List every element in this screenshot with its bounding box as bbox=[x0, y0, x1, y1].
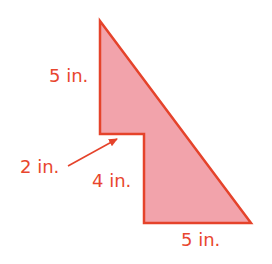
inner-vertical-label: 4 in. bbox=[92, 172, 131, 190]
notch-width-label: 2 in. bbox=[20, 158, 59, 176]
pointer-arrow bbox=[68, 139, 117, 166]
shaded-polygon bbox=[100, 21, 251, 223]
left-side-label: 5 in. bbox=[49, 67, 88, 85]
figure-svg bbox=[0, 0, 272, 264]
bottom-side-label: 5 in. bbox=[181, 231, 220, 249]
